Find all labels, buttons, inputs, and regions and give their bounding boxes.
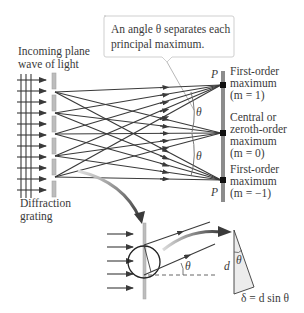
callout: An angle θ separates each principal maxi… xyxy=(104,16,234,110)
inset-arrow-head-icon xyxy=(218,226,232,237)
triangle-theta-label: θ xyxy=(236,254,242,266)
svg-text:maximum: maximum xyxy=(230,77,277,89)
svg-text:First-order: First-order xyxy=(230,65,279,77)
inset-incoming-arrows xyxy=(107,234,133,288)
inset-grating xyxy=(143,223,146,299)
point-p-lower: P xyxy=(210,186,218,198)
grating-label-line-2: grating xyxy=(20,210,53,223)
incoming-label-line-2: wave of light xyxy=(18,58,79,71)
svg-text:Central or: Central or xyxy=(230,111,276,123)
inset-detail: θ d θ δ = d sin θ xyxy=(107,222,290,304)
triangle-d-label: d xyxy=(224,260,230,272)
svg-text:(m = 0): (m = 0) xyxy=(230,147,265,160)
inset-arrow xyxy=(163,231,222,250)
svg-text:(m = 1): (m = 1) xyxy=(230,89,265,102)
inset-ray-lower xyxy=(144,244,215,275)
maximum-label-central: Central or zeroth-order maximum (m = 0) xyxy=(230,111,287,160)
svg-text:maximum: maximum xyxy=(230,175,277,187)
inset-theta-label: θ xyxy=(185,260,191,272)
path-difference-formula: δ = d sin θ xyxy=(241,292,290,304)
diffraction-grating-diagram: An angle θ separates each principal maxi… xyxy=(0,0,304,313)
incoming-label-line-1: Incoming plane xyxy=(18,45,90,58)
svg-text:maximum: maximum xyxy=(230,135,277,147)
angle-theta-lower: θ xyxy=(196,150,202,162)
callout-line-1: An angle θ separates each xyxy=(111,23,230,36)
maximum-label-first-order-lower: First-order maximum (m = −1) xyxy=(230,163,279,200)
svg-text:First-order: First-order xyxy=(230,163,279,175)
diffracted-rays xyxy=(55,85,221,180)
svg-text:(m = −1): (m = −1) xyxy=(230,187,271,200)
maximum-label-first-order-upper: First-order maximum (m = 1) xyxy=(230,65,279,102)
callout-line-2: principal maximum. xyxy=(111,38,204,51)
angle-theta-upper: θ xyxy=(196,106,202,118)
svg-text:zeroth-order: zeroth-order xyxy=(230,123,287,135)
grating-label-line-1: Diffraction xyxy=(20,197,71,209)
point-p-upper: P xyxy=(210,68,218,80)
